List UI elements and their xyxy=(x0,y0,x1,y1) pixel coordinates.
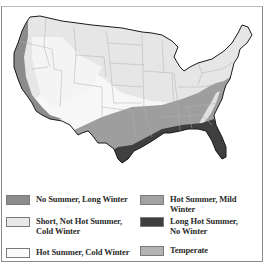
legend-label: Long Hot Summer,No Winter xyxy=(170,216,238,236)
legend-item-temperate: Temperate xyxy=(140,245,208,256)
legend-item-hot-summer-mild-winter: Hot Summer, Mild Winter xyxy=(140,194,260,214)
legend-label: Short, Not Hot Summer,Cold Winter xyxy=(36,216,122,236)
legend-item-long-hot-summer-no-winter: Long Hot Summer,No Winter xyxy=(140,216,238,236)
legend-swatch xyxy=(140,246,164,256)
legend-label: Hot Summer, Cold Winter xyxy=(36,247,129,257)
legend-label: No Summer, Long Winter xyxy=(36,194,128,204)
map-legend: No Summer, Long Winter Hot Summer, Mild … xyxy=(4,192,260,258)
legend-swatch xyxy=(6,195,30,205)
legend-swatch xyxy=(140,195,164,205)
legend-swatch xyxy=(6,248,30,258)
legend-item-short-not-hot-summer-cold-winter: Short, Not Hot Summer,Cold Winter xyxy=(6,216,122,236)
legend-item-hot-summer-cold-winter: Hot Summer, Cold Winter xyxy=(6,247,129,258)
legend-label: Temperate xyxy=(170,245,208,255)
legend-swatch xyxy=(140,217,164,227)
legend-item-no-summer-long-winter: No Summer, Long Winter xyxy=(6,194,128,205)
legend-label: Hot Summer, Mild Winter xyxy=(170,194,260,214)
us-climate-map xyxy=(2,7,262,185)
legend-swatch xyxy=(6,217,30,227)
